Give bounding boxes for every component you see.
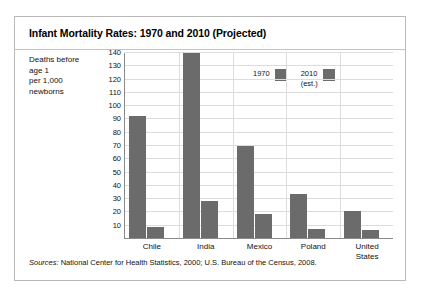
y-axis-caption: Deaths before age 1 per 1,000 newborns bbox=[29, 55, 91, 97]
y-axis-tick-20: 20 bbox=[113, 209, 121, 217]
y-axis-caption-line-1: Deaths before bbox=[29, 55, 91, 66]
y-axis-tick-30: 30 bbox=[113, 195, 121, 203]
y-axis-tick-140: 140 bbox=[108, 49, 121, 57]
y-axis-tick-60: 60 bbox=[113, 156, 121, 164]
x-axis-label-united-states: UnitedStates bbox=[340, 242, 394, 261]
x-axis-label-poland: Poland bbox=[286, 242, 340, 252]
x-axis-label-india: India bbox=[179, 242, 233, 252]
y-axis-caption-line-4: newborns bbox=[29, 87, 91, 98]
y-axis-tick-40: 40 bbox=[113, 182, 121, 190]
x-axis-label-mexico: Mexico bbox=[233, 242, 287, 252]
source-note: Sources: National Center for Health Stat… bbox=[29, 258, 317, 268]
bar-chile-2010 bbox=[147, 227, 164, 238]
source-text: National Center for Health Statistics, 2… bbox=[59, 258, 317, 267]
plot-area: 1970 2010 (est.) ChileIndiaMexicoPolandU… bbox=[124, 53, 393, 239]
y-axis-caption-line-3: per 1,000 bbox=[29, 76, 91, 87]
y-axis-tick-50: 50 bbox=[113, 169, 121, 177]
chart-title: Infant Mortality Rates: 1970 and 2010 (P… bbox=[29, 27, 266, 39]
bar-group-chile: Chile bbox=[125, 53, 179, 238]
bar-chile-1970 bbox=[129, 116, 146, 238]
y-axis-tick-10: 10 bbox=[113, 222, 121, 230]
x-axis-label-chile: Chile bbox=[125, 242, 179, 252]
bar-group-poland: Poland bbox=[286, 53, 340, 238]
y-axis-tick-80: 80 bbox=[113, 129, 121, 137]
bar-poland-2010 bbox=[308, 229, 325, 238]
y-axis-tick-70: 70 bbox=[113, 142, 121, 150]
chart-figure: Infant Mortality Rates: 1970 and 2010 (P… bbox=[14, 16, 406, 281]
bar-group-united-states: UnitedStates bbox=[340, 53, 394, 238]
bar-india-2010 bbox=[201, 201, 218, 238]
bar-mexico-2010 bbox=[255, 214, 272, 238]
y-axis-tick-130: 130 bbox=[108, 63, 121, 71]
y-axis-caption-line-2: age 1 bbox=[29, 66, 91, 77]
y-axis-tick-100: 100 bbox=[108, 102, 121, 110]
bar-group-india: India bbox=[179, 53, 233, 238]
plot-area-wrapper: 102030405060708090100110120130140 1970 2… bbox=[101, 53, 393, 245]
bar-united-states-2010 bbox=[362, 230, 379, 238]
source-label: Sources: bbox=[29, 258, 59, 267]
bar-group-mexico: Mexico bbox=[233, 53, 287, 238]
y-axis-tick-120: 120 bbox=[108, 76, 121, 84]
title-divider bbox=[15, 49, 405, 50]
bar-poland-1970 bbox=[290, 194, 307, 238]
bar-mexico-1970 bbox=[237, 146, 254, 238]
bar-united-states-1970 bbox=[344, 211, 361, 238]
y-axis-tick-labels: 102030405060708090100110120130140 bbox=[101, 53, 121, 245]
bar-india-1970 bbox=[183, 53, 200, 238]
y-axis-tick-110: 110 bbox=[109, 89, 121, 97]
y-axis-tick-90: 90 bbox=[113, 116, 121, 124]
